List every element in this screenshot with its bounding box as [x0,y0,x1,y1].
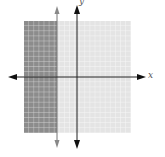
x-axis-label: x [148,70,153,80]
x-axis-left-arrow-icon [8,74,17,80]
x-axis-right-arrow-icon [137,74,146,80]
coordinate-plane [0,0,165,157]
y-axis-down-arrow-icon [74,140,80,149]
y-axis-label: y [79,0,84,6]
y-axis-up-arrow-icon [74,5,80,14]
